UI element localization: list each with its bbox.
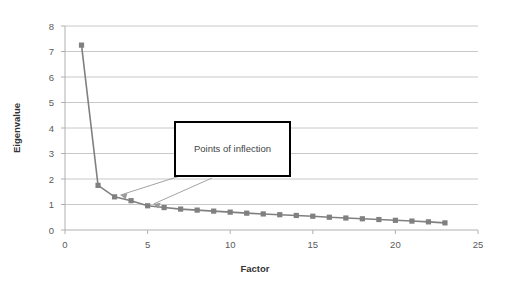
data-point-marker bbox=[128, 198, 133, 203]
x-tick-label-0: 0 bbox=[62, 239, 67, 250]
data-point-marker bbox=[426, 219, 431, 224]
data-point-marker bbox=[112, 194, 117, 199]
data-point-marker bbox=[145, 203, 150, 208]
data-point-marker bbox=[409, 218, 414, 223]
x-tick-label-25: 25 bbox=[473, 239, 484, 250]
x-tick-label-15: 15 bbox=[308, 239, 319, 250]
data-point-marker bbox=[442, 220, 447, 225]
data-point-marker bbox=[294, 213, 299, 218]
data-point-marker bbox=[95, 183, 100, 188]
y-tick-label-0: 0 bbox=[49, 225, 54, 236]
chart-canvas: 8 7 6 5 4 3 2 1 0 0 5 10 15 20 25 Factor… bbox=[0, 0, 505, 291]
y-tick-label-4: 4 bbox=[49, 123, 54, 134]
y-tick-label-3: 3 bbox=[49, 148, 54, 159]
data-point-marker bbox=[79, 43, 84, 48]
x-axis-ticks bbox=[65, 230, 478, 234]
data-point-marker bbox=[360, 216, 365, 221]
x-axis-title: Factor bbox=[240, 263, 269, 274]
y-axis-title: Eigenvalue bbox=[11, 103, 22, 153]
data-point-marker bbox=[228, 210, 233, 215]
x-tick-label-20: 20 bbox=[390, 239, 401, 250]
y-tick-label-5: 5 bbox=[49, 97, 54, 108]
data-point-marker bbox=[393, 218, 398, 223]
y-tick-label-7: 7 bbox=[49, 46, 54, 57]
x-tick-label-5: 5 bbox=[145, 239, 150, 250]
y-tick-label-6: 6 bbox=[49, 72, 54, 83]
data-point-marker bbox=[261, 211, 266, 216]
data-point-marker bbox=[277, 212, 282, 217]
data-point-marker bbox=[327, 215, 332, 220]
data-point-marker bbox=[244, 211, 249, 216]
data-point-marker bbox=[162, 205, 167, 210]
data-point-marker bbox=[178, 206, 183, 211]
data-point-marker bbox=[343, 215, 348, 220]
data-point-marker bbox=[211, 209, 216, 214]
x-axis-tick-labels: 0 5 10 15 20 25 bbox=[62, 239, 483, 250]
data-point-marker bbox=[195, 208, 200, 213]
gridlines bbox=[65, 26, 478, 205]
scree-plot-figure: 8 7 6 5 4 3 2 1 0 0 5 10 15 20 25 Factor… bbox=[0, 0, 505, 291]
y-tick-label-1: 1 bbox=[49, 199, 54, 210]
y-axis-tick-labels: 8 7 6 5 4 3 2 1 0 bbox=[49, 21, 54, 236]
y-tick-label-2: 2 bbox=[49, 174, 54, 185]
data-point-marker bbox=[310, 214, 315, 219]
y-tick-label-8: 8 bbox=[49, 21, 54, 32]
annotation-label: Points of inflection bbox=[194, 143, 271, 154]
x-tick-label-10: 10 bbox=[225, 239, 236, 250]
data-point-marker bbox=[376, 217, 381, 222]
annotation-arrows bbox=[121, 176, 213, 209]
y-axis-ticks bbox=[61, 26, 65, 230]
